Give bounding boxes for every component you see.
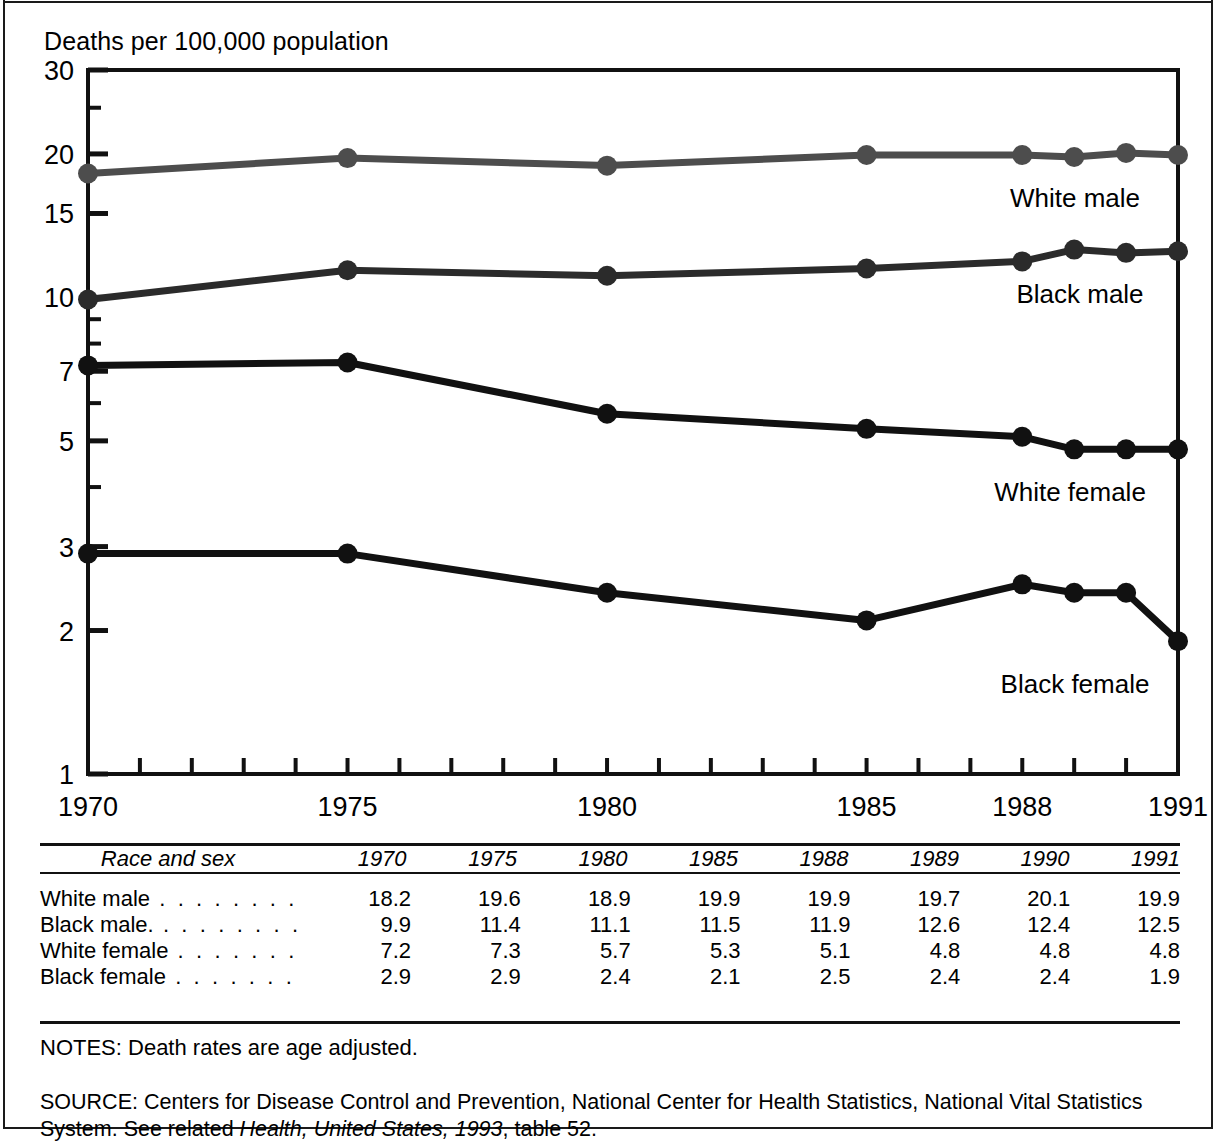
y-tick-label: 3	[59, 533, 74, 563]
series-point	[857, 145, 877, 165]
x-tick-label: 1988	[992, 792, 1052, 818]
chart-series	[78, 143, 1188, 651]
row-label-leader: . . . . . . .	[168, 938, 297, 963]
row-label: Black male. . . . . . . . .	[40, 912, 301, 938]
table-header-rule	[40, 872, 1180, 874]
line-chart: 3020151075321197019751980198519881991 Wh…	[0, 58, 1223, 818]
chart-canvas: 3020151075321197019751980198519881991 Wh…	[0, 58, 1223, 818]
table-cell: 5.1	[741, 938, 851, 964]
source-text: SOURCE: Centers for Disease Control and …	[40, 1089, 1190, 1143]
y-axis-title: Deaths per 100,000 population	[44, 27, 389, 56]
col-header-1989: 1989	[849, 846, 959, 872]
col-header-1991: 1991	[1070, 846, 1181, 872]
x-tick-label: 1991	[1148, 792, 1208, 818]
table-cell: 2.4	[850, 964, 960, 990]
series-label-white-male: White male	[1010, 183, 1140, 213]
row-label-text: White male	[40, 886, 150, 911]
series-point	[1064, 583, 1084, 603]
series-point	[78, 544, 98, 564]
col-header-1990: 1990	[959, 846, 1069, 872]
row-label: Black female . . . . . . .	[40, 964, 301, 990]
series-point	[78, 355, 98, 375]
table-row: Black male. . . . . . . . .9.911.411.111…	[40, 912, 1180, 938]
row-label: White male . . . . . . . .	[40, 886, 301, 912]
y-tick-label: 5	[59, 427, 74, 457]
row-label: White female . . . . . . .	[40, 938, 301, 964]
col-header-race-and-sex: Race and sex	[40, 846, 296, 872]
table-cell: 2.4	[521, 964, 631, 990]
y-tick-label: 20	[44, 140, 74, 170]
data-table-block: Race and sex 1970 1975 1980 1985 1988 19…	[40, 843, 1180, 990]
series-point	[1064, 147, 1084, 167]
y-tick-label: 7	[59, 357, 74, 387]
col-header-1980: 1980	[517, 846, 627, 872]
table-cell: 2.5	[741, 964, 851, 990]
x-tick-label: 1985	[837, 792, 897, 818]
table-cell: 18.9	[521, 886, 631, 912]
y-tick-label: 2	[59, 617, 74, 647]
table-cell: 7.2	[301, 938, 411, 964]
x-tick-label: 1975	[317, 792, 377, 818]
series-point	[857, 258, 877, 278]
table-head: Race and sex 1970 1975 1980 1985 1988 19…	[40, 846, 1180, 872]
x-tick-label: 1970	[58, 792, 118, 818]
x-tick-label: 1980	[577, 792, 637, 818]
notes-rule	[40, 1021, 1180, 1024]
y-tick-label: 15	[44, 199, 74, 229]
data-table: Race and sex 1970 1975 1980 1985 1988 19…	[40, 846, 1180, 872]
row-label-leader: . . . . . . . .	[150, 886, 297, 911]
table-cell: 11.4	[411, 912, 521, 938]
series-point	[78, 163, 98, 183]
col-header-1988: 1988	[738, 846, 848, 872]
series-point	[1116, 143, 1136, 163]
series-point	[1168, 145, 1188, 165]
table-cell: 5.7	[521, 938, 631, 964]
table-cell: 11.1	[521, 912, 631, 938]
table-cell: 4.8	[1070, 938, 1180, 964]
table-cell: 2.1	[631, 964, 741, 990]
series-point	[1012, 251, 1032, 271]
table-cell: 19.7	[850, 886, 960, 912]
table-cell: 4.8	[850, 938, 960, 964]
table-row: White male . . . . . . . .18.219.618.919…	[40, 886, 1180, 912]
y-tick-label: 30	[44, 58, 74, 86]
series-point	[1116, 439, 1136, 459]
series-point	[1012, 145, 1032, 165]
series-point	[597, 156, 617, 176]
source-line-2-italic: Health, United States, 1993	[240, 1117, 503, 1141]
series-point	[857, 610, 877, 630]
source-line-1: SOURCE: Centers for Disease Control and …	[40, 1090, 1143, 1114]
row-label-leader: . . . . . . .	[166, 964, 295, 989]
row-label-text: Black female	[40, 964, 166, 989]
series-point	[1116, 583, 1136, 603]
series-label-black-male: Black male	[1016, 279, 1143, 309]
series-line-black-female	[88, 554, 1178, 642]
table-cell: 5.3	[631, 938, 741, 964]
table-cell: 11.5	[631, 912, 741, 938]
table-header-row: Race and sex 1970 1975 1980 1985 1988 19…	[40, 846, 1180, 872]
table-cell: 7.3	[411, 938, 521, 964]
table-cell: 12.4	[960, 912, 1070, 938]
data-table-body-wrap: White male . . . . . . . .18.219.618.919…	[40, 886, 1180, 990]
col-header-1975: 1975	[407, 846, 517, 872]
row-label-text: White female	[40, 938, 168, 963]
series-point	[1064, 240, 1084, 260]
table-cell: 19.9	[631, 886, 741, 912]
table-cell: 19.9	[741, 886, 851, 912]
series-label-black-female: Black female	[1001, 669, 1150, 699]
series-point	[1064, 439, 1084, 459]
series-point	[597, 404, 617, 424]
series-label-white-female: White female	[994, 477, 1146, 507]
table-cell: 11.9	[741, 912, 851, 938]
series-point	[597, 266, 617, 286]
page-border-top	[3, 1, 1213, 3]
notes-text: NOTES: Death rates are age adjusted.	[40, 1035, 418, 1061]
series-point	[338, 148, 358, 168]
y-tick-label: 1	[59, 760, 74, 790]
table-cell: 18.2	[301, 886, 411, 912]
table-cell: 12.5	[1070, 912, 1180, 938]
table-cell: 19.6	[411, 886, 521, 912]
table-row: White female . . . . . . .7.27.35.75.35.…	[40, 938, 1180, 964]
series-point	[1012, 427, 1032, 447]
